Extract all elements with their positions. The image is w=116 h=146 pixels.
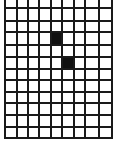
grid-horizontal-line: [5, 91, 113, 92]
grid-horizontal-line: [5, 7, 113, 8]
grid-horizontal-line: [5, 20, 113, 21]
filled-cell: [62, 57, 74, 69]
grid-horizontal-line: [5, 56, 113, 57]
grid-horizontal-line: [5, 102, 113, 103]
grid-horizontal-line: [5, 126, 113, 127]
grid-horizontal-line: [5, 137, 113, 138]
grid-horizontal-line: [5, 68, 113, 69]
grid-horizontal-line: [5, 44, 113, 45]
grid-board: [0, 0, 116, 146]
grid-horizontal-line: [5, 79, 113, 80]
grid-horizontal-line: [5, 114, 113, 115]
grid-horizontal-line: [5, 31, 113, 32]
